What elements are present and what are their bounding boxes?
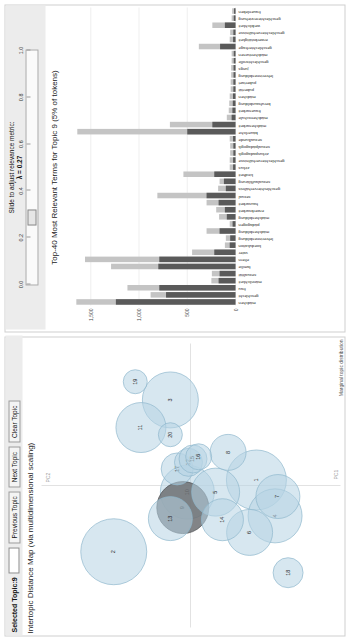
bar-term-label[interactable]: frau — [237, 286, 245, 291]
bar-term-label[interactable]: mädchen — [237, 95, 255, 100]
bar-term-label[interactable]: mädchenschule — [237, 116, 267, 121]
bar-estimated-frequency[interactable] — [224, 206, 235, 212]
bar-term-label[interactable]: lehrerinnenbildung — [237, 73, 272, 78]
bar-term-label[interactable]: familie — [237, 265, 250, 270]
bar-term-label[interactable]: pädagogen — [237, 222, 259, 227]
barchart-svg[interactable]: 05001,0001,500mädchengeschlechtfraumännl… — [61, 3, 343, 331]
slider-tick — [26, 49, 30, 50]
bar-term-label[interactable]: männlichkeit — [237, 279, 261, 284]
app-window: Selected Topic:9 Previous Topic Next Top… — [0, 0, 349, 640]
bar-term-label[interactable]: erwerbstätigkeit — [237, 38, 267, 43]
topic-bubble-number: 3 — [166, 398, 172, 401]
topic-bubble-number: 20 — [166, 431, 172, 437]
barchart-y-tick-label: 0 — [232, 308, 238, 311]
intertopic-map-title: Intertopic Distance Map (via multidimens… — [25, 442, 34, 633]
bar-term-label[interactable]: sexualkunde — [237, 137, 261, 142]
bar-term-label[interactable]: eltern — [237, 258, 248, 263]
topic-number-input[interactable] — [8, 547, 19, 573]
slider-tick — [26, 283, 30, 284]
term-barchart-panel: Slide to adjust relevance metric: λ = 0.… — [4, 4, 345, 332]
bar-term-label[interactable]: sexualität — [237, 272, 256, 277]
bar-term-label[interactable]: mädchenarbeit — [237, 123, 266, 128]
bar-term-label[interactable]: bäuerliche — [237, 130, 257, 135]
barchart-y-tick-label: 500 — [184, 308, 190, 317]
bar-estimated-frequency[interactable] — [214, 249, 235, 255]
topic-bubble-number: 2 — [110, 550, 116, 553]
bar-term-label[interactable]: geschlecht — [237, 293, 258, 298]
bar-term-label[interactable]: lehrerinnenbildung — [237, 237, 272, 242]
bar-estimated-frequency[interactable] — [166, 292, 235, 298]
bar-term-label[interactable]: pubertät — [237, 88, 253, 93]
map-y-axis-label: PC2 — [44, 472, 50, 482]
bar-term-label[interactable]: mädchen — [237, 300, 255, 305]
topic-bubble-number: 18 — [284, 569, 290, 575]
bar-estimated-frequency[interactable] — [159, 256, 235, 262]
bar-term-label[interactable]: kindheit — [237, 173, 252, 178]
bar-estimated-frequency[interactable] — [224, 22, 235, 28]
topic-bubble-number: 19 — [131, 378, 137, 384]
bar-term-label[interactable]: frauenarbeit — [237, 109, 260, 114]
topic-bubble-number: 7 — [274, 495, 280, 498]
bar-term-label[interactable]: mädchenturnen — [237, 52, 267, 57]
bar-term-label[interactable]: geschlechterverhältnisse — [237, 31, 284, 36]
bar-estimated-frequency[interactable] — [219, 270, 235, 276]
slider-tick-label: 0.6 — [17, 140, 23, 148]
bar-estimated-frequency[interactable] — [229, 242, 235, 248]
bar-term-label[interactable]: vater — [237, 251, 247, 256]
bar-term-label[interactable]: erwerbsarbeit — [237, 208, 263, 213]
bar-estimated-frequency[interactable] — [220, 43, 235, 49]
bar-estimated-frequency[interactable] — [214, 171, 235, 177]
bar-term-label[interactable]: frauenleben — [237, 10, 260, 15]
bar-term-label[interactable]: sexualaufklärung — [237, 180, 269, 185]
bar-estimated-frequency[interactable] — [115, 299, 235, 305]
next-topic-button[interactable]: Next Topic — [8, 446, 20, 486]
bar-estimated-frequency[interactable] — [226, 214, 235, 220]
bar-term-label[interactable]: hausarbeit — [237, 201, 257, 206]
slider-tick-label: 0.2 — [17, 233, 23, 241]
bar-estimated-frequency[interactable] — [187, 128, 235, 134]
bar-estimated-frequency[interactable] — [206, 192, 235, 198]
bar-term-label[interactable]: pubertaet — [237, 81, 256, 86]
slider-tick — [26, 189, 30, 190]
barchart-title: Top-40 Most Relevant Terms for Topic 9 (… — [49, 3, 58, 331]
bar-estimated-frequency[interactable] — [230, 235, 235, 241]
slider-tick — [26, 96, 30, 97]
bar-estimated-frequency[interactable] — [223, 178, 235, 184]
previous-topic-button[interactable]: Previous Topic — [8, 491, 20, 543]
clear-topic-button[interactable]: Clear Topic — [8, 400, 20, 442]
marginal-distribution-legend: Marginal topic distribution — [337, 339, 343, 396]
bar-estimated-frequency[interactable] — [218, 199, 235, 205]
relevance-slider-caption-line1: Slide to adjust relevance metric: — [7, 5, 15, 329]
bar-estimated-frequency[interactable] — [231, 114, 235, 120]
bar-term-label[interactable]: sexual — [238, 194, 250, 199]
intertopic-map-svg[interactable]: PC1 PC2 2134109115671314817181215161920 — [35, 335, 346, 635]
barchart-y-tick-label: 1,500 — [87, 308, 93, 321]
bar-term-label[interactable]: zirkuspadagogik — [237, 151, 268, 156]
bar-term-label[interactable]: geschlechterverhältnisse — [237, 159, 284, 164]
bar-term-label[interactable]: jungs — [238, 66, 249, 71]
bar-term-label[interactable]: berufsausbildung — [237, 102, 270, 107]
bar-term-label[interactable]: geschlechtererziehung — [237, 17, 280, 22]
relevance-slider-track[interactable]: 0.00.20.40.60.81.0 — [25, 49, 38, 285]
bar-term-label[interactable]: sexualpädagogik — [237, 144, 269, 149]
topic-bubble-group[interactable]: 2134109115671314817181215161920 — [80, 369, 302, 587]
bar-term-label[interactable]: mädchenbildung — [237, 230, 268, 235]
bar-term-label[interactable]: weiblichkeit — [237, 24, 259, 29]
bar-term-label[interactable]: geschlechterfrage — [237, 45, 271, 50]
topic-bubble-number: 14 — [218, 516, 224, 522]
relevance-slider-handle[interactable] — [27, 209, 36, 225]
slider-tick-label: 0.0 — [17, 280, 23, 288]
bar-estimated-frequency[interactable] — [159, 284, 235, 290]
barchart-plot: 05001,0001,500mädchengeschlechtfraumännl… — [61, 3, 343, 331]
bar-estimated-frequency[interactable] — [218, 277, 235, 283]
topic-controls-toolbar: Selected Topic:9 Previous Topic Next Top… — [5, 335, 22, 635]
bar-estimated-frequency[interactable] — [219, 228, 235, 234]
bar-estimated-frequency[interactable] — [158, 263, 235, 269]
bar-term-label[interactable]: zirkus — [238, 166, 249, 171]
bar-term-label[interactable]: mädchenbildung — [237, 215, 268, 220]
bar-estimated-frequency[interactable] — [225, 185, 235, 191]
bar-estimated-frequency[interactable] — [212, 121, 235, 127]
bar-term-label[interactable]: geschlechterverhältnis — [238, 187, 280, 192]
bar-term-label[interactable]: koedukation — [237, 244, 260, 249]
bar-term-label[interactable]: geschlechtsrolle — [237, 59, 268, 64]
